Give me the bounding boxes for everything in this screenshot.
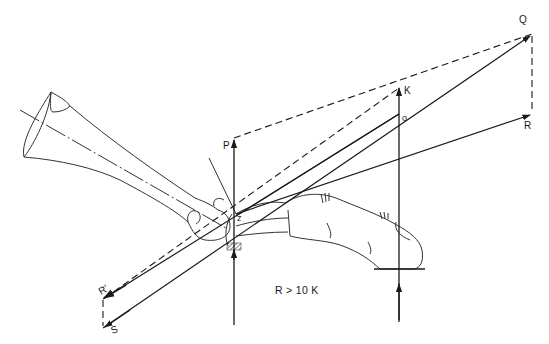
label-z: z	[237, 214, 242, 223]
label-p: P	[223, 141, 230, 151]
caption-r-greater-10k: R > 10 K	[275, 285, 319, 296]
force-r-line	[236, 115, 530, 214]
label-k: K	[404, 86, 411, 96]
label-q: Q	[519, 15, 527, 25]
metatarsal-bone	[20, 92, 232, 246]
force-diagram: Q R K o P z R' S R > 10 K	[0, 0, 549, 344]
label-r: R	[524, 121, 531, 131]
joint-axis-line	[209, 158, 236, 214]
label-o: o	[402, 114, 407, 123]
